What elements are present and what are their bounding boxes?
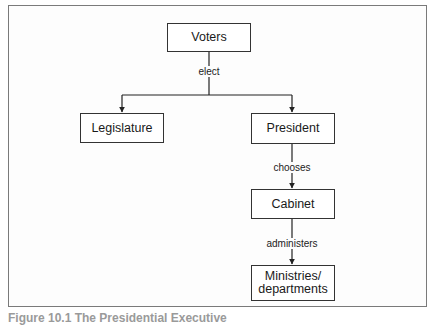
node-president: President	[251, 113, 335, 144]
node-cabinet: Cabinet	[251, 189, 335, 219]
figure-caption: Figure 10.1 The Presidential Executive	[8, 311, 227, 325]
node-legislature: Legislature	[80, 113, 164, 143]
edge-label-administers: administers	[264, 238, 319, 249]
node-ministries-label-line2: departments	[258, 283, 327, 296]
node-ministries-departments: Ministries/ departments	[251, 265, 335, 301]
node-voters: Voters	[167, 23, 251, 52]
node-voters-label: Voters	[191, 31, 226, 44]
edge-label-chooses: chooses	[271, 162, 312, 173]
node-president-label: President	[267, 122, 320, 135]
node-legislature-label: Legislature	[91, 122, 152, 135]
node-cabinet-label: Cabinet	[271, 198, 314, 211]
edge-label-elect: elect	[196, 66, 221, 77]
